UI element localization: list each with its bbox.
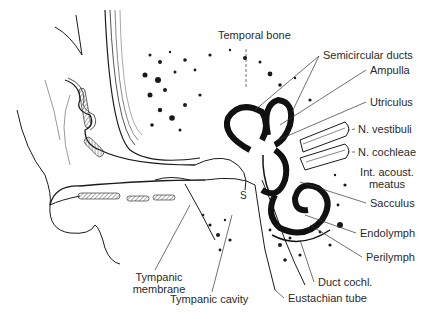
label-duct-cochl: Duct cochl. xyxy=(318,276,372,288)
label-n-cochleae: N. cochleae xyxy=(358,146,416,158)
label-endolymph: Endolymph xyxy=(360,227,415,239)
label-semicircular-ducts: Semicircular ducts xyxy=(323,49,413,61)
label-int-acoust-meatus: Int. acoust. meatus xyxy=(358,166,416,190)
label-stapes-s: S xyxy=(240,190,247,202)
label-n-vestibuli: N. vestibuli xyxy=(358,123,412,135)
label-tympanic-membrane-text: Tympanic membrane xyxy=(133,271,186,295)
label-temporal-bone: Temporal bone xyxy=(218,29,291,41)
label-int-acoust-meatus-text: Int. acoust. meatus xyxy=(360,166,414,190)
label-ampulla: Ampulla xyxy=(370,64,410,76)
inner-ear-diagram: Temporal bone Semicircular ducts Ampulla… xyxy=(0,0,421,319)
label-tympanic-membrane: Tympanic membrane xyxy=(124,271,194,295)
label-eustachian-tube: Eustachian tube xyxy=(288,292,367,304)
label-tympanic-cavity: Tympanic cavity xyxy=(170,293,248,305)
ear-illustration xyxy=(0,0,421,319)
label-sacculus: Sacculus xyxy=(370,197,415,209)
label-utriculus: Utriculus xyxy=(370,96,413,108)
label-perilymph: Perilymph xyxy=(366,251,415,263)
